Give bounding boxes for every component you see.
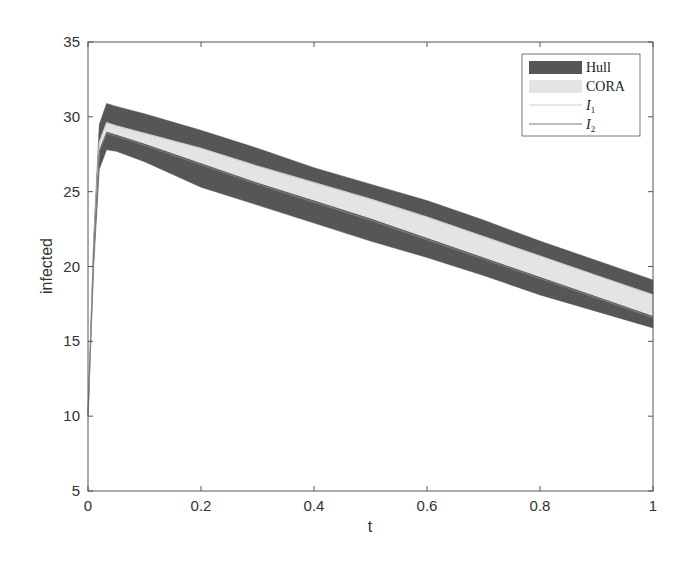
- legend-swatch-cora: [529, 80, 582, 93]
- legend-swatch-hull: [529, 61, 582, 74]
- x-tick-label: 0: [84, 497, 92, 514]
- x-tick-label: 0.4: [304, 497, 325, 514]
- y-tick-label: 5: [72, 482, 80, 499]
- legend-label-hull: Hull: [586, 60, 611, 75]
- y-axis-label: infected: [38, 238, 55, 294]
- y-tick-label: 20: [63, 258, 80, 275]
- y-tick-label: 15: [63, 332, 80, 349]
- y-tick-label: 30: [63, 108, 80, 125]
- legend-label-cora: CORA: [586, 79, 626, 94]
- x-tick-label: 1: [649, 497, 657, 514]
- x-tick-label: 0.8: [530, 497, 551, 514]
- chart: 00.20.40.60.81 5101520253035 t infected …: [0, 0, 689, 568]
- y-tick-label: 35: [63, 33, 80, 50]
- y-tick-label: 25: [63, 183, 80, 200]
- y-tick-label: 10: [63, 407, 80, 424]
- x-tick-label: 0.2: [191, 497, 212, 514]
- plot-area: [88, 103, 653, 416]
- x-axis-label: t: [368, 518, 373, 535]
- x-tick-label: 0.6: [417, 497, 438, 514]
- legend: Hull CORA I1 I2: [522, 54, 640, 136]
